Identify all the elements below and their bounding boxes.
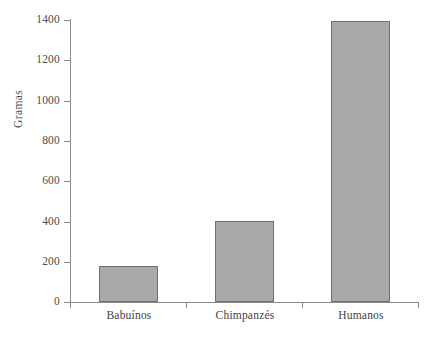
y-tick-label: 400 [2,216,60,228]
bar-babuinos [99,266,158,302]
x-axis-label-humanos: Humanos [315,309,407,322]
y-tick-label: 800 [2,135,60,147]
y-tick-label: 1400 [2,14,60,26]
x-tick-boundary-2 [302,302,303,308]
y-tick-1000 [64,101,70,102]
y-axis-line [70,19,71,303]
x-tick-boundary-1 [186,302,187,308]
y-tick-label: 200 [2,256,60,268]
x-tick-start [70,302,71,308]
y-tick-1200 [64,60,70,61]
bar-humanos [331,21,390,302]
y-tick-label: 1200 [2,54,60,66]
y-tick-1400 [64,20,70,21]
x-tick-end [418,302,419,308]
y-tick-200 [64,262,70,263]
y-tick-800 [64,141,70,142]
y-tick-600 [64,181,70,182]
bar-chimpanzes [215,221,274,302]
bar-chart: Gramas 1400 1200 1000 800 600 400 200 0 … [0,0,440,337]
y-tick-400 [64,222,70,223]
y-tick-label: 1000 [2,95,60,107]
y-tick-label: 0 [2,296,60,308]
x-axis-line [70,302,418,303]
y-tick-label: 600 [2,175,60,187]
x-axis-label-babuinos: Babuínos [83,309,175,322]
x-axis-label-chimpanzes: Chimpanzés [199,309,291,322]
